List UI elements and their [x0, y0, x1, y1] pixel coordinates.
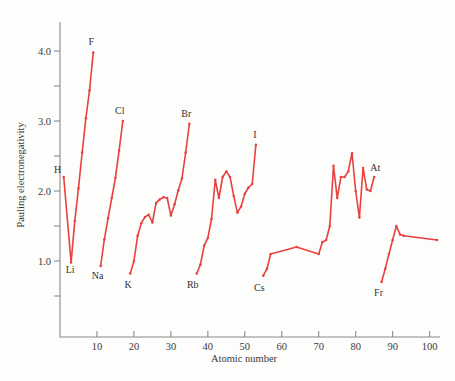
data-point [358, 216, 361, 219]
data-point [92, 51, 95, 54]
x-tick-label: 100 [422, 341, 438, 352]
data-point [369, 190, 372, 193]
x-tick-label: 80 [350, 341, 361, 352]
data-point [266, 267, 269, 270]
data-point [188, 123, 191, 126]
data-point [262, 274, 265, 277]
data-point [384, 267, 387, 270]
x-tick-label: 10 [92, 341, 103, 352]
data-point [203, 244, 206, 247]
data-point [210, 218, 213, 221]
y-axis-tick-labels: 1.02.03.04.0 [38, 46, 51, 267]
data-point [362, 167, 365, 170]
data-point [402, 235, 405, 238]
data-point [85, 117, 88, 120]
data-point [118, 149, 121, 152]
data-point [321, 241, 324, 244]
data-point [351, 152, 354, 155]
data-point [129, 272, 132, 275]
x-tick-label: 70 [313, 341, 324, 352]
x-tick-label: 50 [240, 341, 251, 352]
data-point [147, 214, 150, 217]
data-point [111, 197, 114, 200]
data-point [181, 177, 184, 180]
element-label-i: I [253, 129, 256, 140]
data-point [144, 216, 147, 219]
data-point [196, 272, 199, 275]
data-point [173, 203, 176, 206]
element-label-cs: Cs [254, 282, 265, 293]
data-point [184, 151, 187, 154]
data-point [373, 176, 376, 179]
y-axis-title: Pauling electronegativity [15, 122, 26, 228]
data-point [122, 120, 125, 123]
element-label-fr: Fr [374, 287, 384, 298]
series-line [101, 121, 123, 266]
data-point [199, 263, 202, 266]
data-point [232, 195, 235, 198]
data-point [103, 238, 106, 241]
data-point [343, 176, 346, 179]
data-point [225, 170, 228, 173]
data-point [77, 187, 80, 190]
electronegativity-chart: 1.02.03.04.0 102030405060708090100 HLiFN… [0, 0, 455, 381]
data-point [114, 176, 117, 179]
data-point [340, 176, 343, 179]
x-axis-title: Atomic number [211, 353, 278, 364]
data-point [62, 176, 64, 179]
data-point [366, 188, 369, 191]
data-point [151, 221, 154, 224]
element-label-li: Li [66, 264, 75, 275]
x-tick-label: 40 [203, 341, 214, 352]
data-point [136, 235, 139, 238]
y-tick-label: 2.0 [38, 186, 51, 197]
data-point [240, 205, 243, 208]
series-line [64, 52, 94, 262]
element-label-na: Na [92, 270, 104, 281]
data-point [133, 260, 136, 263]
data-point [107, 217, 110, 220]
data-point [166, 197, 169, 200]
data-point [295, 246, 298, 249]
x-axis-ticks [97, 331, 430, 337]
data-point [214, 179, 217, 182]
x-tick-label: 90 [387, 341, 398, 352]
data-point [207, 237, 210, 240]
element-label-br: Br [181, 108, 192, 119]
data-point [251, 183, 254, 186]
data-point [81, 151, 84, 154]
data-point [244, 193, 247, 196]
data-point [99, 265, 102, 268]
data-point [380, 281, 383, 284]
data-point [177, 189, 180, 192]
data-point [347, 170, 350, 173]
data-point [391, 239, 394, 242]
data-point [236, 211, 239, 214]
data-point [247, 186, 250, 189]
x-tick-label: 60 [277, 341, 288, 352]
x-tick-label: 30 [166, 341, 177, 352]
element-label-f: F [88, 36, 94, 47]
chart-page: 1.02.03.04.0 102030405060708090100 HLiFN… [0, 0, 455, 381]
data-point [229, 176, 232, 179]
data-point [155, 202, 158, 205]
series-lines [64, 52, 437, 282]
element-label-cl: Cl [115, 105, 125, 116]
data-point [395, 225, 398, 228]
data-point [317, 253, 320, 256]
data-point [255, 144, 258, 147]
element-label-rb: Rb [187, 279, 199, 290]
data-point [159, 198, 162, 201]
x-axis-tick-labels: 102030405060708090100 [92, 341, 438, 352]
data-point [269, 253, 272, 256]
data-point [325, 239, 328, 242]
data-point-markers [62, 51, 438, 283]
data-point [436, 239, 439, 242]
data-point [170, 214, 173, 217]
x-tick-label: 20 [129, 341, 140, 352]
data-point [70, 261, 73, 264]
element-label-h: H [54, 164, 61, 175]
element-label-at: At [370, 162, 380, 173]
data-point [218, 197, 221, 200]
data-point [140, 222, 143, 225]
